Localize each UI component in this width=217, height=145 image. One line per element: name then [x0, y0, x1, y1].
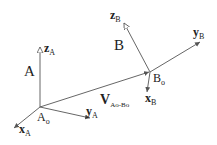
- vector-ao-bo: [40, 72, 149, 107]
- origin-a-letter: A: [37, 110, 46, 124]
- origin-b-letter: B: [153, 71, 161, 85]
- axis-y-a-subscript: A: [92, 111, 98, 120]
- frame-b-label: B: [114, 38, 124, 53]
- vector-letter: V: [100, 92, 110, 107]
- axis-z-b: [124, 23, 150, 72]
- axis-y-a-label: yA: [86, 105, 98, 117]
- axis-y-b: [150, 42, 200, 72]
- frame-a-label: A: [24, 64, 35, 79]
- vector-label: VAo-Bo: [100, 93, 129, 107]
- axis-x-b-label: xB: [145, 92, 156, 104]
- axis-y-b-label: yB: [193, 26, 204, 38]
- axis-y-b-subscript: B: [199, 32, 204, 41]
- origin-a-label: Ao: [37, 111, 50, 123]
- axis-x-b: [147, 72, 150, 92]
- axis-z-a-label: zA: [44, 42, 55, 54]
- origin-b-label: Bo: [153, 72, 165, 84]
- origin-a-subscript: o: [46, 117, 50, 126]
- axis-z-a-subscript: A: [49, 48, 55, 57]
- origin-b-subscript: o: [161, 78, 165, 87]
- axis-x-a-subscript: A: [25, 129, 31, 138]
- axis-z-b-label: zB: [110, 9, 121, 21]
- vector-subscript: Ao-Bo: [110, 101, 129, 109]
- axis-z-b-subscript: B: [115, 15, 120, 24]
- axis-x-a-label: xA: [19, 123, 31, 135]
- axis-x-b-subscript: B: [151, 98, 156, 107]
